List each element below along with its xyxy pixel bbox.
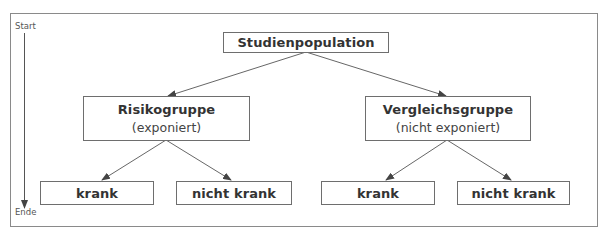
comparison-group-box: Vergleichsgruppe (nicht exponiert) (365, 96, 531, 141)
root-node-box: Studienpopulation (223, 32, 389, 53)
risk-outcome-not-sick-label: nicht krank (192, 186, 276, 201)
risk-group-box: Risikogruppe (exponiert) (83, 96, 250, 141)
comparison-outcome-not-sick-label: nicht krank (471, 186, 555, 201)
timeline-end-label: Ende (15, 207, 36, 217)
comparison-outcome-sick-box: krank (321, 181, 435, 205)
risk-outcome-sick-box: krank (40, 181, 154, 205)
arrow-risk-to-nicht-krank (166, 140, 231, 180)
arrow-risk-to-krank (102, 140, 166, 180)
risk-group-subtitle: (exponiert) (132, 120, 201, 135)
risk-group-title: Risikogruppe (118, 102, 216, 117)
arrow-compare-to-nicht-krank (447, 140, 511, 180)
comparison-group-subtitle: (nicht exponiert) (396, 120, 500, 135)
comparison-group-title: Vergleichsgruppe (383, 102, 513, 117)
timeline-start-label: Start (15, 21, 36, 31)
root-node-label: Studienpopulation (237, 35, 374, 50)
risk-outcome-sick-label: krank (76, 186, 118, 201)
comparison-outcome-sick-label: krank (357, 186, 399, 201)
arrow-root-to-compare (306, 52, 446, 96)
risk-outcome-not-sick-box: nicht krank (176, 181, 292, 205)
arrow-compare-to-krank (386, 140, 447, 180)
arrow-root-to-risk (168, 52, 306, 96)
comparison-outcome-not-sick-box: nicht krank (457, 181, 570, 205)
